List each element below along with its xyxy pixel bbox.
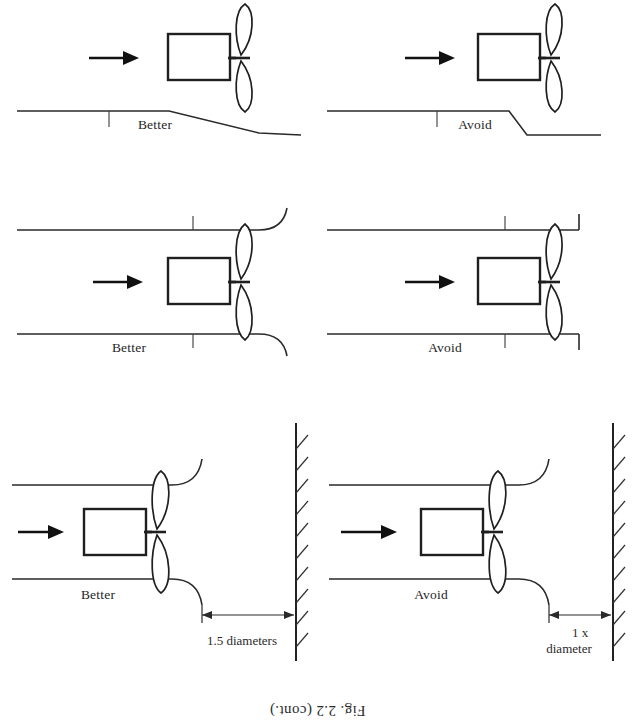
panel-middle-right-better: Better <box>15 192 305 372</box>
panel-bottom-right-better: Better <box>15 7 305 157</box>
figure-caption: Fig. 2.2 (cont.) <box>0 702 635 719</box>
panel-middle-left-drawing: Avoid <box>325 192 605 372</box>
panel-bottom-left-avoid: Avoid <box>325 7 605 157</box>
fan-motor-body <box>421 509 483 555</box>
verdict-label-avoid: Avoid <box>414 587 448 602</box>
panel-top-right-drawing: 1.5 diameters Better <box>10 417 310 667</box>
panel-middle-left-avoid: Avoid <box>325 192 605 372</box>
panel-bottom-left-drawing: Avoid <box>325 7 605 157</box>
fan-motor-body <box>168 34 230 80</box>
panel-bottom-right-drawing: Better <box>15 7 305 157</box>
fan-motor-body <box>84 509 146 555</box>
fan-motor-body <box>168 258 230 304</box>
air-flow-direction-arrow <box>89 51 139 65</box>
dimension-label-diameter: diameter <box>546 641 592 656</box>
verdict-label-avoid: Avoid <box>428 340 462 355</box>
panel-top-right-better: 1.5 diameters Better <box>10 417 310 667</box>
verdict-label-avoid: Avoid <box>458 117 492 132</box>
air-flow-direction-arrow <box>93 275 143 289</box>
air-flow-direction-arrow <box>18 525 64 539</box>
hatched-wall <box>296 423 308 661</box>
air-flow-direction-arrow <box>405 51 455 65</box>
fan-motor-body <box>478 258 540 304</box>
fan-motor-body <box>478 34 540 80</box>
duct-lower-wall <box>329 459 549 485</box>
panel-middle-right-drawing: Better <box>15 192 305 372</box>
air-flow-direction-arrow <box>405 275 455 289</box>
hatched-wall <box>613 423 625 661</box>
dimension-label-1-5-diameters: 1.5 diameters <box>207 633 277 648</box>
figure-page: Fig. 2.2 (cont.) <box>0 0 635 727</box>
verdict-label-better: Better <box>112 340 146 355</box>
verdict-label-better: Better <box>81 587 115 602</box>
dimension-one-diameter <box>549 605 611 623</box>
duct-lower-wall <box>12 459 202 485</box>
panel-top-left-drawing: 1 x diameter Avoid <box>327 417 627 667</box>
verdict-label-better: Better <box>138 117 172 132</box>
dimension-one-point-five-diameters <box>202 605 294 623</box>
dimension-label-one-x: 1 x <box>572 625 589 640</box>
air-flow-direction-arrow <box>341 525 397 539</box>
panel-top-left-avoid: 1 x diameter Avoid <box>327 417 627 667</box>
